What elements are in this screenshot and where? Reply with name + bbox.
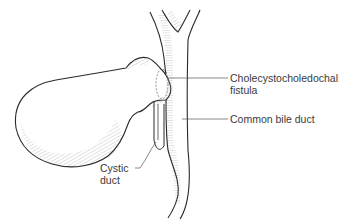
- cystic-duct-label-line1: Cystic: [100, 162, 129, 174]
- anatomy-diagram: [0, 0, 350, 223]
- common-bile-duct-label-line1: Common bile duct: [230, 113, 315, 125]
- gallbladder: [15, 57, 170, 167]
- hepatic-branch-shading: [167, 10, 182, 30]
- cystic-duct-leader-line: [135, 142, 156, 168]
- cystic-duct-label-line2: duct: [100, 174, 129, 186]
- cystic-duct-label: Cystic duct: [100, 162, 129, 186]
- gallbladder-shading: [20, 120, 122, 168]
- cystic-duct: [152, 97, 166, 150]
- common-bile-duct: [150, 10, 200, 219]
- fistula-label: Cholecystocholedochal fistula: [230, 72, 338, 96]
- common-bile-duct-label: Common bile duct: [230, 113, 315, 125]
- fistula-label-line1: Cholecystocholedochal: [230, 72, 338, 84]
- duct-right-wall: [180, 10, 200, 219]
- fistula-label-line2: fistula: [230, 84, 338, 96]
